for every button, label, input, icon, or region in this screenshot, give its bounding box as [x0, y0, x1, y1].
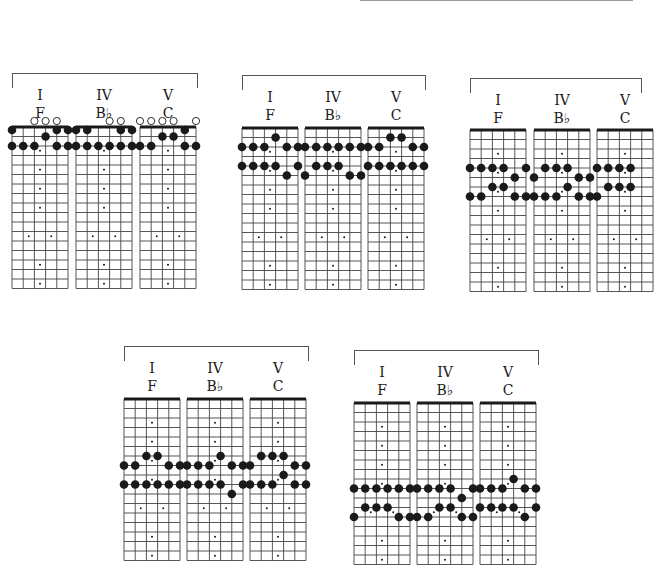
fretboard-diagram [348, 397, 416, 570]
roman-numeral: V [240, 360, 316, 376]
fretboard-diagram [411, 397, 479, 570]
fretboard-diagram [528, 124, 596, 298]
fretboard-diagram [299, 122, 367, 296]
fretboard-diagram [70, 121, 138, 295]
chord-label: VC [130, 87, 206, 121]
chord-name: C [470, 382, 546, 398]
fretboard-diagram [362, 122, 430, 296]
roman-numeral: V [130, 87, 206, 103]
chord-name: C [358, 107, 434, 123]
fretboard-diagram [134, 121, 202, 295]
chord-name: C [240, 378, 316, 394]
page-edge-line [360, 0, 633, 1]
fretboard-diagram [474, 397, 542, 570]
group-bracket [470, 78, 642, 93]
fretboard-diagram [244, 393, 312, 567]
group-bracket [124, 346, 309, 361]
fretboard-diagram [181, 393, 249, 567]
fretboard-diagram [236, 122, 304, 296]
roman-numeral: V [587, 92, 658, 108]
chord-label: VC [587, 92, 658, 126]
roman-numeral: V [470, 364, 546, 380]
group-bracket [12, 73, 198, 88]
fretboard-diagram [6, 121, 74, 295]
chord-label: VC [470, 364, 546, 398]
chord-label: VC [240, 360, 316, 394]
group-bracket [354, 350, 539, 365]
roman-numeral: V [358, 89, 434, 105]
fretboard-diagram [591, 124, 658, 298]
fretboard-diagram [118, 393, 186, 567]
group-bracket [242, 75, 426, 90]
fretboard-diagram [464, 124, 532, 298]
chord-label: VC [358, 89, 434, 123]
